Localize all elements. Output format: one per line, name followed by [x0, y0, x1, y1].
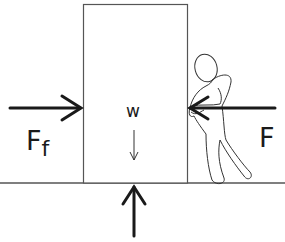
- person-pushing-figure: [189, 52, 251, 184]
- applied-force-arrow: [190, 97, 275, 119]
- free-body-diagram: Ff w F: [0, 0, 285, 242]
- friction-force-arrow: [10, 96, 81, 120]
- friction-label: Ff: [26, 125, 51, 161]
- applied-force-label: F: [259, 122, 275, 153]
- weight-label: w: [126, 101, 140, 121]
- normal-force-arrow: [123, 187, 145, 236]
